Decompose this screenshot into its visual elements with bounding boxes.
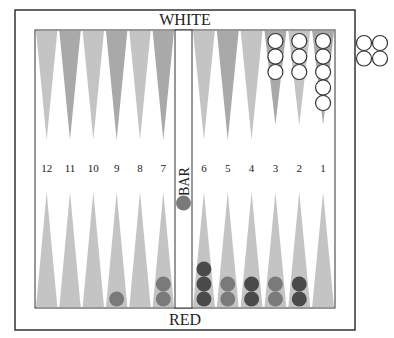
point-number: 3 (273, 162, 279, 174)
point-number: 12 (41, 162, 52, 174)
red-checker[interactable] (109, 292, 124, 307)
point-number: 8 (137, 162, 143, 174)
point-number: 5 (225, 162, 231, 174)
borne-off-white-checker (373, 51, 388, 66)
backgammon-board: WHITE RED 121110987654321 BAR (0, 0, 394, 338)
white-checker[interactable] (316, 49, 331, 64)
white-checker[interactable] (268, 49, 283, 64)
red-checker[interactable] (196, 262, 211, 277)
white-checker[interactable] (316, 65, 331, 80)
red-checker[interactable] (156, 277, 171, 292)
point-number: 2 (297, 162, 303, 174)
borne-off-white-checker (357, 51, 372, 66)
white-checker[interactable] (268, 34, 283, 49)
red-checker[interactable] (268, 277, 283, 292)
borne-off-tray (357, 36, 388, 67)
red-checker[interactable] (196, 292, 211, 307)
white-checker[interactable] (316, 34, 331, 49)
red-checker[interactable] (156, 292, 171, 307)
bar-label: BAR (177, 167, 192, 196)
white-checker[interactable] (316, 96, 331, 111)
red-player-label: RED (169, 311, 201, 328)
borne-off-white-checker (373, 36, 388, 51)
white-checker[interactable] (292, 34, 307, 49)
bar-red-checker[interactable] (176, 196, 191, 211)
white-player-label: WHITE (159, 11, 211, 28)
red-checker[interactable] (220, 277, 235, 292)
red-checker[interactable] (244, 292, 259, 307)
point-number: 10 (88, 162, 100, 174)
red-checker[interactable] (244, 277, 259, 292)
point-number: 9 (114, 162, 120, 174)
red-checker[interactable] (292, 292, 307, 307)
point-number: 11 (65, 162, 76, 174)
bar-checkers (176, 196, 191, 211)
white-checker[interactable] (292, 49, 307, 64)
red-checker[interactable] (268, 292, 283, 307)
point-number: 6 (201, 162, 207, 174)
red-checker[interactable] (196, 277, 211, 292)
point-number: 1 (320, 162, 326, 174)
point-number: 7 (161, 162, 167, 174)
red-checker[interactable] (292, 277, 307, 292)
point-number: 4 (249, 162, 255, 174)
white-checker[interactable] (316, 80, 331, 95)
white-checker[interactable] (268, 65, 283, 80)
red-checker[interactable] (220, 292, 235, 307)
borne-off-white-checker (357, 36, 372, 51)
white-checker[interactable] (292, 65, 307, 80)
